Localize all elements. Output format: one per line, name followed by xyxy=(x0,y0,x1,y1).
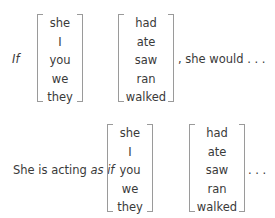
subject-item: we xyxy=(122,180,138,199)
verb-item: walked xyxy=(197,198,237,217)
verb-item: had xyxy=(206,124,228,143)
verb-item: saw xyxy=(206,161,228,180)
subject-item: they xyxy=(117,198,143,217)
subject-item: we xyxy=(52,70,68,89)
subject-item: she xyxy=(120,124,140,143)
subject-list: she I you we they xyxy=(112,124,148,217)
lead-if: If xyxy=(12,52,19,66)
subject-item: I xyxy=(58,33,61,52)
tail-text: , she would . . . xyxy=(178,52,265,66)
verb-list: had ate saw ran walked xyxy=(123,14,169,107)
verb-item: saw xyxy=(135,51,157,70)
lead-plain: She is acting xyxy=(13,163,90,177)
lead-text: She is acting as if xyxy=(13,163,114,177)
ellipsis-text: . . . xyxy=(248,163,266,177)
verb-item: walked xyxy=(126,88,166,107)
verb-item: ate xyxy=(208,143,227,162)
subject-item: they xyxy=(47,88,73,107)
verb-item: ran xyxy=(136,70,155,89)
subject-item: you xyxy=(49,51,70,70)
verb-item: ate xyxy=(137,33,156,52)
subject-item: I xyxy=(128,143,131,162)
subject-item: she xyxy=(50,14,70,33)
subject-list: she I you we they xyxy=(42,14,78,107)
verb-item: ran xyxy=(207,180,226,199)
verb-list: had ate saw ran walked xyxy=(194,124,240,217)
subject-item: you xyxy=(119,161,140,180)
verb-item: had xyxy=(135,14,157,33)
